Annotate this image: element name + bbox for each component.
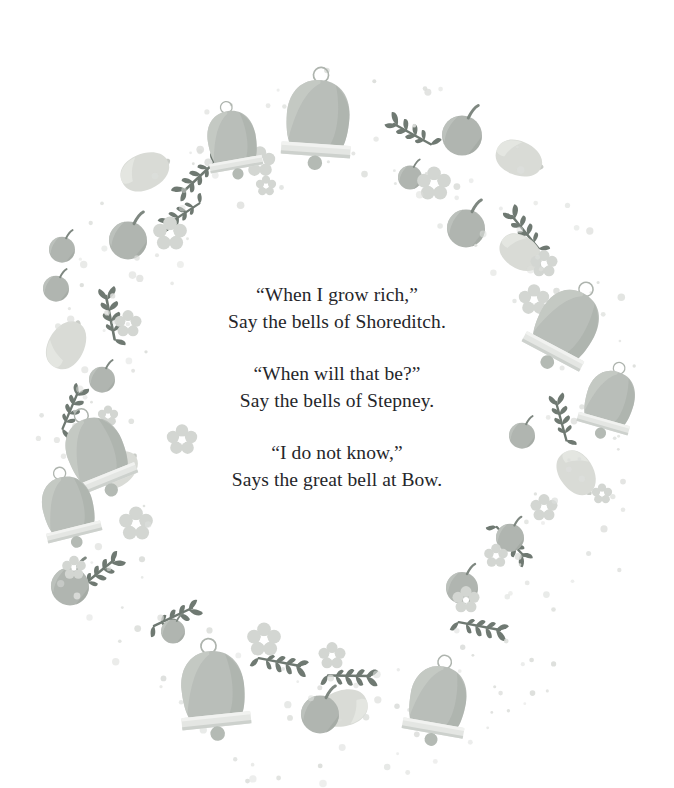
scatter-dot <box>610 494 615 499</box>
scatter-dot <box>327 675 334 682</box>
scatter-dot <box>251 763 255 767</box>
scatter-dot <box>523 702 526 705</box>
scatter-dot <box>179 205 186 212</box>
scatter-dot <box>571 579 575 583</box>
scatter-dot <box>118 639 122 643</box>
scatter-dot <box>86 614 92 620</box>
scatter-dot <box>374 696 381 703</box>
scatter-dot <box>145 521 152 528</box>
scatter-dot <box>141 576 144 579</box>
scatter-dot <box>471 654 474 657</box>
scatter-dot <box>425 172 428 175</box>
scatter-dot <box>161 676 167 682</box>
scatter-dot <box>157 614 164 621</box>
scatter-dot <box>233 757 237 761</box>
scatter-dot <box>245 779 250 784</box>
flower-icon <box>247 623 281 656</box>
scatter-dot <box>318 763 323 768</box>
scatter-dot <box>460 645 465 650</box>
scatter-dot <box>281 667 285 671</box>
scatter-dot <box>204 109 209 114</box>
scatter-dot <box>249 775 256 782</box>
lemon-icon <box>115 144 178 198</box>
scatter-dot <box>412 124 416 128</box>
illustrated-rhyme-page: “When I grow rich,”Say the bells of Shor… <box>0 0 674 788</box>
berry-icon <box>447 200 485 248</box>
scatter-dot <box>296 680 299 683</box>
scatter-dot <box>152 173 159 180</box>
scatter-dot <box>508 591 513 596</box>
scatter-dot <box>277 89 280 92</box>
scatter-dot <box>574 225 580 231</box>
scatter-dot <box>394 704 399 709</box>
scatter-dot <box>192 162 195 165</box>
scatter-dot <box>552 497 558 503</box>
scatter-dot <box>551 607 556 612</box>
scatter-dot <box>282 104 286 108</box>
scatter-dot <box>539 267 543 271</box>
scatter-dot <box>474 244 477 247</box>
scatter-dot <box>454 195 459 200</box>
scatter-dot <box>363 714 369 720</box>
scatter-dot <box>490 269 496 275</box>
scatter-dot <box>308 695 314 701</box>
berry-icon <box>398 160 422 190</box>
scatter-dot <box>433 759 438 764</box>
scatter-dot <box>458 669 462 673</box>
scatter-dot <box>424 89 431 96</box>
scatter-dot <box>79 258 82 261</box>
scatter-dot <box>266 103 271 108</box>
scatter-dot <box>101 246 107 252</box>
scatter-dot <box>521 662 525 666</box>
scatter-dot <box>74 593 81 600</box>
scatter-dot <box>95 543 102 550</box>
scatter-dot <box>524 520 529 525</box>
scatter-dot <box>600 525 607 532</box>
scatter-dot <box>139 556 145 562</box>
verse-line: Say the bells of Shoreditch. <box>0 309 674 336</box>
scatter-dot <box>181 187 187 193</box>
scatter-dot <box>454 183 461 190</box>
verse-line: Says the great bell at Bow. <box>0 467 674 494</box>
scatter-dot <box>394 182 397 185</box>
scatter-dot <box>617 568 621 572</box>
lemon-icon <box>490 134 549 184</box>
scatter-dot <box>384 764 391 771</box>
scatter-dot <box>373 136 378 141</box>
scatter-dot <box>134 255 140 261</box>
scatter-dot <box>159 685 162 688</box>
scatter-dot <box>565 203 570 208</box>
scatter-dot <box>498 691 503 696</box>
scatter-dot <box>438 87 443 92</box>
scatter-dot <box>499 206 503 210</box>
bell-icon <box>173 634 253 744</box>
scatter-dot <box>469 178 474 183</box>
scatter-dot <box>327 160 330 163</box>
scatter-dot <box>57 580 64 587</box>
scatter-dot <box>493 685 496 688</box>
scatter-dot <box>533 201 538 206</box>
scatter-dot <box>517 166 525 174</box>
scatter-dot <box>393 169 396 172</box>
berry-icon <box>109 212 147 260</box>
scatter-dot <box>284 701 291 708</box>
scatter-dot <box>287 715 293 721</box>
scatter-dot <box>525 580 530 585</box>
leaf-sprig-icon <box>450 610 511 646</box>
scatter-dot <box>279 185 284 190</box>
flower-icon <box>256 176 276 196</box>
scatter-dot <box>372 79 376 83</box>
leaf-sprig-icon <box>383 108 442 157</box>
scatter-dot <box>361 171 368 178</box>
scatter-dot <box>155 253 159 257</box>
verse-line: “When will that be?” <box>0 361 674 388</box>
verse-stanza: “When will that be?”Say the bells of Ste… <box>0 361 674 414</box>
scatter-dot <box>339 744 346 751</box>
scatter-dot <box>546 689 549 692</box>
scatter-dot <box>373 670 381 678</box>
scatter-dot <box>586 551 591 556</box>
scatter-dot <box>206 627 212 633</box>
flower-icon <box>318 642 345 668</box>
scatter-dot <box>515 553 522 560</box>
scatter-dot <box>197 149 202 154</box>
